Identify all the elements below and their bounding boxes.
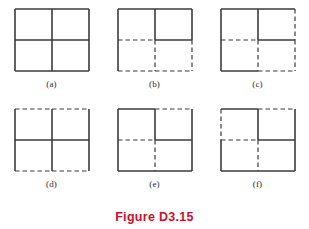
panel-c-diagram: [219, 7, 297, 73]
panel-a-svg: [13, 7, 91, 73]
panel-a-label: (a): [46, 79, 57, 89]
panel-a: (a): [0, 0, 103, 100]
panel-c-label: (c): [252, 79, 263, 89]
panel-e: (e): [103, 100, 206, 200]
panel-c-svg: [219, 7, 297, 73]
panel-b: (b): [103, 0, 206, 100]
panel-grid: (a) (b) (c) (d) (e): [0, 0, 309, 200]
panel-b-label: (b): [149, 79, 160, 89]
panel-e-svg: [116, 107, 194, 173]
panel-f-diagram: [219, 107, 297, 173]
panel-f: (f): [206, 100, 309, 200]
figure-caption: Figure D3.15: [0, 210, 309, 224]
panel-d-label: (d): [46, 179, 57, 189]
panel-e-label: (e): [149, 179, 160, 189]
panel-d-diagram: [13, 107, 91, 173]
panel-e-diagram: [116, 107, 194, 173]
panel-d-svg: [13, 107, 91, 173]
panel-d: (d): [0, 100, 103, 200]
panel-c: (c): [206, 0, 309, 100]
panel-b-diagram: [116, 7, 194, 73]
panel-f-label: (f): [253, 179, 263, 189]
panel-f-svg: [219, 107, 297, 173]
figure-container: (a) (b) (c) (d) (e): [0, 0, 309, 229]
panel-a-diagram: [13, 7, 91, 73]
panel-b-svg: [116, 7, 194, 73]
